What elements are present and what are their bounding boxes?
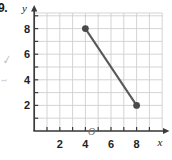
y-tick-label-2: 2 [24,99,30,111]
x-axis-label: x [157,136,163,148]
y-tick-label-8: 8 [24,23,30,35]
origin-label: O [88,126,95,137]
x-tick-label-2: 2 [57,138,63,150]
axis-lines [33,10,165,132]
x-tick-label-8: 8 [134,138,140,150]
x-tick-label-6: 6 [108,138,114,150]
y-tick-label-4: 4 [24,74,31,86]
data-point-end [133,102,140,109]
coordinate-plane-figure: 9. ✓ ~ [0,0,172,160]
x-axis-arrow [163,128,170,134]
y-axis-label: y [21,2,27,14]
y-axis-arrow [31,5,37,12]
x-tick-label-4: 4 [82,138,89,150]
y-tick-label-6: 6 [24,48,30,60]
grid-lines [34,13,162,131]
chart-svg: 2 4 6 8 2 4 6 8 y x O [0,0,172,160]
data-point-start [82,25,89,32]
